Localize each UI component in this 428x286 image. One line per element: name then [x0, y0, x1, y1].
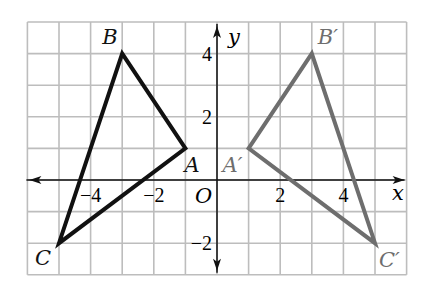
x-tick-label: 4: [338, 184, 348, 206]
y-tick-label: 4: [202, 43, 212, 65]
x-tick-label: −4: [80, 184, 101, 206]
vertex-label: B′: [317, 25, 338, 49]
coordinate-plane: −4−22442−2 ABCA′B′C′ x y O: [0, 0, 428, 286]
vertex-label: C′: [379, 248, 400, 272]
x-tick-label: 2: [275, 184, 285, 206]
y-tick-label: 2: [202, 106, 212, 128]
y-tick-label: −2: [191, 232, 212, 254]
vertex-label: A′: [221, 153, 243, 177]
origin-label: O: [195, 184, 212, 208]
vertex-label: A: [182, 153, 199, 177]
x-axis-label: x: [392, 181, 404, 205]
vertex-label: C: [35, 246, 51, 270]
x-tick-label: −2: [143, 184, 164, 206]
y-axis-label: y: [227, 25, 241, 49]
vertex-label: B: [101, 25, 117, 49]
